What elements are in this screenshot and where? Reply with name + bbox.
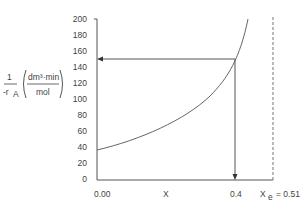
svg-text:60: 60 [78,126,88,136]
y-axis-label: 1 -r A dm³·min mol [3,70,63,99]
y-tick-labels: 200 180 160 140 120 100 80 60 40 20 0 [73,14,87,184]
svg-text:A: A [13,89,19,99]
x-tick-0-4: 0.4 [230,189,242,199]
svg-text:180: 180 [73,30,87,40]
svg-text:160: 160 [73,46,87,56]
arrowhead-down-icon [233,174,238,180]
svg-text:= 0.51: = 0.51 [276,189,300,199]
svg-text:-r: -r [3,87,9,97]
arrowhead-left-icon [97,57,103,62]
svg-text:80: 80 [78,110,88,120]
x-tick-0: 0.00 [94,189,111,199]
svg-text:mol: mol [36,87,50,97]
svg-text:40: 40 [78,142,88,152]
chart: 200 180 160 140 120 100 80 60 40 20 0 0.… [0,0,306,207]
svg-text:e: e [268,192,273,202]
svg-text:X: X [260,189,266,199]
data-curve [97,19,248,150]
x-axis-label: X [163,189,169,199]
svg-text:140: 140 [73,62,87,72]
svg-text:1: 1 [7,72,12,82]
svg-text:120: 120 [73,78,87,88]
svg-text:100: 100 [73,94,87,104]
svg-text:dm³·min: dm³·min [28,72,59,82]
svg-text:200: 200 [73,14,87,24]
equilibrium-label: X e = 0.51 [260,189,300,202]
svg-text:20: 20 [78,158,88,168]
svg-text:0: 0 [82,174,87,184]
